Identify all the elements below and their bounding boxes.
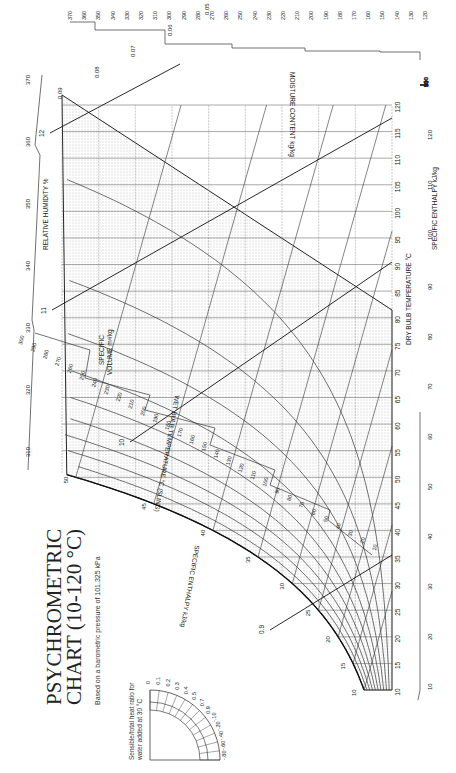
enthalpy-bottom-label: 270 <box>54 356 62 366</box>
dry-bulb-tick-label: 20 <box>394 635 401 643</box>
enthalpy-right-label: 20 <box>427 633 433 640</box>
enthalpy-bottom-label: 290 <box>29 342 37 352</box>
protractor-label: 0.3 <box>174 682 180 690</box>
protractor-label: -.20 <box>215 721 221 730</box>
enthalpy-right-label: 60 <box>427 433 433 440</box>
dry-bulb-tick-label: 45 <box>394 502 401 510</box>
dry-bulb-tick-label: 90 <box>394 263 401 271</box>
dry-bulb-tick-label: 65 <box>394 396 401 404</box>
enthalpy-left-label: 320 <box>25 384 31 395</box>
wet-bulb-label: 20 <box>325 635 331 642</box>
enthalpy-top-label: 150 <box>379 11 385 20</box>
enthalpy-top-label: 220 <box>280 11 286 20</box>
specific-volume-label: 11 <box>40 307 47 314</box>
protractor-note-line2: water added at 30 °C <box>135 699 144 760</box>
enthalpy-top-label: 290 <box>181 11 187 20</box>
rh-axis-label: RELATIVE HUMIDITY % <box>42 178 49 250</box>
dry-bulb-tick-label: 30 <box>394 582 401 590</box>
dry-bulb-tick-label: 110 <box>394 155 401 166</box>
protractor-label: 0.5 <box>191 692 197 700</box>
enthalpy-right-label: 40 <box>427 533 433 540</box>
wet-bulb-label: 30 <box>279 582 285 589</box>
chart-region <box>62 95 392 690</box>
enthalpy-top-label: 210 <box>294 11 300 20</box>
enthalpy-left-label: 350 <box>25 198 31 209</box>
enthalpy-bottom-label: 300 <box>17 335 25 345</box>
enthalpy-right-label: 50 <box>427 483 433 490</box>
enthalpy-top-label: 330 <box>124 11 130 20</box>
dry-bulb-tick-label: 100 <box>394 208 401 219</box>
dry-bulb-tick-label: 15 <box>394 661 401 669</box>
enthalpy-right-label: 80 <box>427 333 433 340</box>
enthalpy-right-label: 10 <box>427 683 433 690</box>
enthalpy-top-label: 360 <box>81 11 87 20</box>
enthalpy-top-label: 190 <box>323 11 329 20</box>
chart-title-line2: CHART (10-120 °C) <box>64 529 84 705</box>
enthalpy-top-label: 310 <box>152 11 158 20</box>
enthalpy-left-label: 330 <box>25 322 31 333</box>
dry-bulb-tick-label: 120 <box>394 101 401 112</box>
specific-volume-label: 12 <box>38 129 45 137</box>
enthalpy-top-label: 280 <box>195 11 201 20</box>
enthalpy-left-label: 310 <box>25 446 31 457</box>
enthalpy-right-label: 70 <box>427 383 433 390</box>
enthalpy-top-label: 200 <box>308 11 314 20</box>
dry-bulb-tick-label: 60 <box>394 422 401 430</box>
protractor-tick <box>198 742 217 747</box>
enthalpy-top-label: 170 <box>351 11 357 20</box>
protractor-label: 0.4 <box>183 687 189 695</box>
enthalpy-top-label: 120 <box>422 11 428 20</box>
enthalpy-left-label: 370 <box>25 74 31 85</box>
enthalpy-top-label: 240 <box>252 11 258 20</box>
enthalpy-top-label: 250 <box>237 11 243 20</box>
specific-volume-axis-label-2: VOLUME m³/kg <box>106 329 114 375</box>
dry-bulb-tick-label: 80 <box>394 316 401 324</box>
moisture-tick-label: 0.08 <box>94 66 100 78</box>
moisture-tick-label: 0.09 <box>57 87 63 99</box>
enthalpy-top-label: 180 <box>337 11 343 20</box>
protractor-tick <box>157 691 160 711</box>
specific-volume-label: 0.9 <box>258 625 265 634</box>
wet-bulb-label: 10 <box>351 689 357 696</box>
enthalpy-right-label: 90 <box>427 283 433 290</box>
protractor-label: -.60 <box>220 741 226 750</box>
dry-bulb-tick-label: 95 <box>394 236 401 244</box>
dry-bulb-tick-label: 115 <box>394 128 401 139</box>
specific-volume-label: 10 <box>118 438 125 446</box>
enthalpy-scale-right-frame <box>418 412 420 700</box>
enthalpy-top-label: 140 <box>394 11 400 20</box>
enthalpy-left-label: 340 <box>25 260 31 271</box>
dry-bulb-tick-label: 70 <box>394 369 401 377</box>
chart-subtitle: Based on a barometric pressure of 101.32… <box>94 556 101 705</box>
protractor-label: 0.2 <box>165 679 171 687</box>
protractor-tick <box>180 704 192 720</box>
moisture-tick-label: 0.06 <box>167 24 173 36</box>
enthalpy-top-label: 370 <box>67 11 73 20</box>
wet-bulb-label: 35 <box>245 556 251 563</box>
dry-bulb-tick-label: 55 <box>394 449 401 457</box>
protractor-label: 0 <box>145 681 151 684</box>
wet-bulb-label: 50 <box>63 476 69 483</box>
dry-bulb-tick-label: 50 <box>394 475 401 483</box>
moisture-axis-label: MOISTURE CONTENT kg/kg <box>288 72 296 157</box>
enthalpy-right-label: 100 <box>427 229 433 240</box>
heat-ratio-protractor <box>150 690 220 760</box>
protractor-label: 0.7 <box>199 699 205 707</box>
enthalpy-top-label: 300 <box>166 11 172 20</box>
enthalpy-scale-top-frame <box>70 22 420 60</box>
protractor-tick <box>196 733 214 741</box>
enthalpy-right-label: 10 <box>423 80 429 87</box>
protractor-label: -.80 <box>221 751 227 760</box>
enthalpy-top-label: 270 <box>209 11 215 20</box>
protractor-tick <box>190 717 206 729</box>
specific-volume-line <box>50 64 180 133</box>
protractor-tick <box>200 751 220 754</box>
moisture-tick-label: 0.07 <box>130 45 136 57</box>
enthalpy-top-label: 260 <box>223 11 229 20</box>
enthalpy-top-label: 350 <box>95 11 101 20</box>
enthalpy-right-label: 30 <box>427 583 433 590</box>
enthalpy-right-label: 110 <box>427 180 433 190</box>
enthalpy-top-label: 160 <box>365 11 371 20</box>
dry-bulb-axis-label: DRY BULB TEMPERATURE °C <box>405 253 412 345</box>
enthalpy-top-label: 320 <box>138 11 144 20</box>
